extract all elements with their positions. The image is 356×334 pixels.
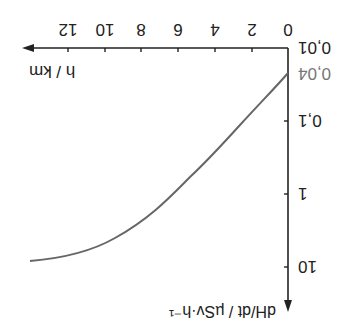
y-axis-arrow-icon xyxy=(284,300,292,312)
y-tick-label: 1 xyxy=(298,184,307,203)
x-tick-label: 8 xyxy=(136,20,145,39)
x-tick-label: 2 xyxy=(247,20,256,39)
y-tick-label: 0,01 xyxy=(298,38,331,57)
x-tick-label: 6 xyxy=(173,20,182,39)
x-tick-label: 4 xyxy=(210,20,219,39)
x-axis-label: h / km xyxy=(29,62,75,81)
y-tick-label: 0,1 xyxy=(298,111,322,130)
x-tick-labels: 0 2 4 6 8 10 12 xyxy=(59,20,293,39)
dose-rate-chart: 0 2 4 6 8 10 12 0,01 0,1 1 10 0,04 h / k… xyxy=(0,0,356,334)
y-annotation-start-value: 0,04 xyxy=(298,64,331,83)
y-tick-label: 10 xyxy=(298,257,317,276)
x-tick-label: 10 xyxy=(96,20,115,39)
x-tick-label: 0 xyxy=(283,20,292,39)
x-axis-arrow-icon xyxy=(22,44,34,52)
x-tick-label: 12 xyxy=(59,20,78,39)
dose-rate-curve xyxy=(30,73,288,261)
y-axis-label: dH/dt / µSv·h⁻¹ xyxy=(169,303,276,320)
